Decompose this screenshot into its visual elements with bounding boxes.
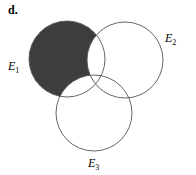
label-e2: E2	[164, 31, 176, 47]
label-e1: E1	[7, 59, 19, 75]
circle-e3	[56, 75, 132, 151]
panel-label: d.	[8, 3, 18, 17]
label-e3: E3	[87, 156, 99, 172]
venn-diagram: d. E1 E2 E3	[0, 0, 196, 175]
